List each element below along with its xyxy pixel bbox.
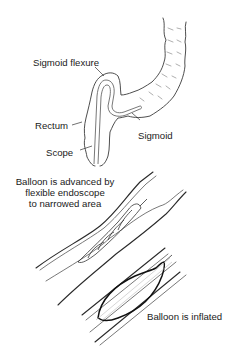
balloon-inflated-panel: Balloon is inflated <box>82 248 222 345</box>
leader-rectum <box>72 122 82 125</box>
leader-sigmoid-flexure <box>95 67 104 76</box>
colon-outline-inner <box>100 22 186 166</box>
caption-advanced-line-2: flexible endoscope <box>25 187 104 198</box>
leader-sigmoid <box>132 113 140 120</box>
inflated-wall-lower-2 <box>95 272 180 342</box>
caption-inflated: Balloon is inflated <box>147 311 222 322</box>
caption-advanced-line-3: to narrowed area <box>29 198 102 209</box>
label-sigmoid-flexure: Sigmoid flexure <box>33 57 99 68</box>
colon-outline-outer <box>84 18 166 166</box>
catheter-tip-advanced <box>140 199 147 206</box>
caption-advanced-line-1: Balloon is advanced by <box>16 176 115 187</box>
label-sigmoid: Sigmoid <box>138 130 173 141</box>
leader-scope <box>80 146 92 150</box>
label-scope: Scope <box>46 147 73 158</box>
scope-tip <box>140 106 142 109</box>
colon-panel: Sigmoid flexure Rectum Scope Sigmoid <box>33 18 186 166</box>
folded-balloon-outline <box>78 204 141 263</box>
scope-body-inner <box>98 85 140 164</box>
scope-body <box>94 80 140 164</box>
balloon-dilation-diagram: Sigmoid flexure Rectum Scope Sigmoid Bal… <box>0 0 242 361</box>
haustra-markings <box>140 28 181 101</box>
balloon-advanced-panel: Balloon is advanced by flexible endoscop… <box>16 172 186 305</box>
label-rectum: Rectum <box>35 120 68 131</box>
inflated-wall-lower-3 <box>100 275 186 345</box>
